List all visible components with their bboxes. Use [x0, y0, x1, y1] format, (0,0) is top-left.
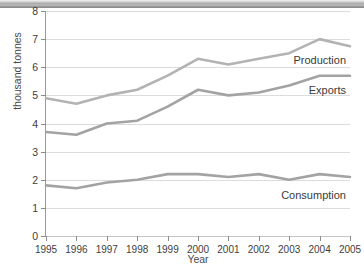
x-tick-label-1999: 1999 [156, 244, 178, 255]
y-tick-label-4: 4 [32, 118, 38, 130]
y-tick-label-6: 6 [32, 61, 38, 73]
series-label-consumption: Consumption [281, 189, 346, 201]
x-tick-mark-2005 [350, 236, 351, 241]
series-line-consumption [46, 174, 350, 188]
x-tick-label-1998: 1998 [126, 244, 148, 255]
x-tick-mark-2004 [320, 236, 321, 241]
y-tick-label-0: 0 [32, 230, 38, 242]
line-chart: thousand tonnes Year 012345678 199519961… [0, 7, 364, 271]
series-label-exports: Exports [309, 84, 346, 96]
x-tick-label-2000: 2000 [187, 244, 209, 255]
x-tick-mark-2001 [228, 236, 229, 241]
y-tick-label-2: 2 [32, 174, 38, 186]
y-tick-label-5: 5 [32, 89, 38, 101]
chart-screenshot: thousand tonnes Year 012345678 199519961… [0, 0, 364, 271]
x-tick-mark-1999 [168, 236, 169, 241]
series-label-production: Production [293, 54, 346, 66]
y-tick-label-8: 8 [32, 5, 38, 17]
y-axis-title: thousand tonnes [11, 6, 23, 136]
x-tick-mark-1997 [107, 236, 108, 241]
x-tick-mark-2000 [198, 236, 199, 241]
x-tick-label-2003: 2003 [278, 244, 300, 255]
series-line-production [46, 39, 350, 104]
x-tick-label-2002: 2002 [248, 244, 270, 255]
x-tick-label-1996: 1996 [65, 244, 87, 255]
series-line-exports [46, 76, 350, 135]
x-tick-mark-1996 [76, 236, 77, 241]
x-tick-label-1995: 1995 [35, 244, 57, 255]
x-tick-label-2005: 2005 [339, 244, 361, 255]
series-lines [46, 11, 350, 236]
x-tick-label-2004: 2004 [308, 244, 330, 255]
plot-area: 012345678 199519961997199819992000200120… [46, 11, 350, 235]
x-tick-label-2001: 2001 [217, 244, 239, 255]
x-tick-mark-2002 [259, 236, 260, 241]
y-tick-label-1: 1 [32, 202, 38, 214]
y-tick-label-3: 3 [32, 146, 38, 158]
x-tick-label-1997: 1997 [96, 244, 118, 255]
y-tick-label-7: 7 [32, 33, 38, 45]
x-tick-mark-2003 [289, 236, 290, 241]
x-tick-mark-1998 [137, 236, 138, 241]
x-tick-mark-1995 [46, 236, 47, 241]
